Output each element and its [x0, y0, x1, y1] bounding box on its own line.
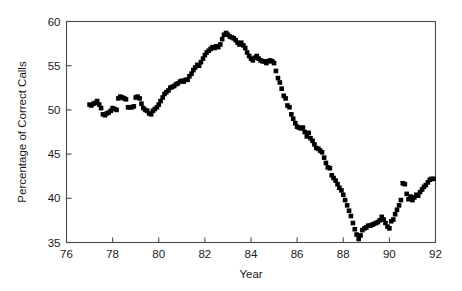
y-tick-label: 60	[48, 16, 61, 28]
data-point	[349, 214, 354, 219]
data-point	[431, 177, 436, 182]
data-point	[341, 192, 346, 197]
data-point	[302, 130, 307, 135]
data-point	[283, 96, 288, 101]
data-point	[272, 61, 277, 66]
chart-canvas: 354045505560 767880828486889092 Percenta…	[0, 0, 462, 291]
data-point	[218, 42, 223, 47]
data-point	[301, 125, 306, 130]
data-point	[291, 116, 296, 121]
data-point	[124, 97, 129, 102]
data-point	[139, 101, 144, 106]
data-point	[387, 226, 392, 231]
data-point	[403, 182, 408, 187]
data-point	[114, 108, 119, 113]
y-axis-title: Percentage of Correct Calls	[16, 61, 28, 203]
scatter-chart: 354045505560 767880828486889092 Percenta…	[0, 0, 462, 291]
data-point	[137, 96, 142, 101]
data-point	[397, 203, 402, 208]
x-tick-label: 92	[429, 248, 442, 260]
data-point	[404, 192, 409, 197]
data-point	[352, 227, 357, 232]
x-tick-label: 84	[245, 248, 258, 260]
y-tick-label: 55	[48, 60, 61, 72]
data-point	[345, 203, 350, 208]
data-point	[243, 46, 248, 51]
data-point	[274, 69, 279, 74]
x-tick-label: 90	[383, 248, 396, 260]
data-point	[306, 131, 311, 136]
data-point	[351, 221, 356, 226]
data-point	[132, 104, 137, 109]
data-point	[322, 155, 327, 160]
y-axis-ticks: 354045505560	[48, 16, 72, 249]
data-point	[339, 188, 344, 193]
data-point	[324, 161, 329, 166]
data-point	[399, 198, 404, 203]
data-point	[343, 198, 348, 203]
y-tick-label: 45	[48, 148, 61, 160]
x-axis-title: Year	[239, 268, 262, 280]
data-point	[278, 80, 283, 85]
y-tick-label: 40	[48, 192, 61, 204]
data-point	[391, 217, 396, 222]
x-tick-label: 82	[198, 248, 211, 260]
data-point	[328, 166, 333, 171]
data-point	[287, 105, 292, 110]
data-point	[99, 106, 104, 111]
data-point	[354, 232, 359, 237]
data-point	[279, 86, 284, 91]
data-point-group	[87, 31, 436, 242]
data-point	[393, 212, 398, 217]
data-point	[358, 233, 363, 238]
data-point	[347, 208, 352, 213]
data-point	[395, 207, 400, 212]
x-tick-label: 80	[152, 248, 165, 260]
x-tick-label: 76	[60, 248, 73, 260]
x-tick-label: 86	[291, 248, 304, 260]
x-axis-ticks: 767880828486889092	[60, 238, 442, 260]
y-tick-label: 50	[48, 104, 61, 116]
data-point	[276, 76, 281, 81]
x-tick-label: 78	[106, 248, 119, 260]
data-point	[289, 112, 294, 117]
y-tick-label: 35	[48, 237, 61, 249]
data-point	[320, 150, 325, 155]
data-point	[220, 37, 225, 42]
x-tick-label: 88	[337, 248, 350, 260]
